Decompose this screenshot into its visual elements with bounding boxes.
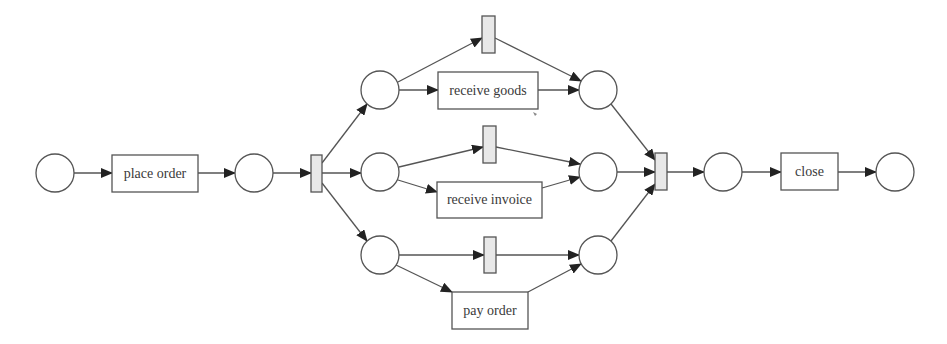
arc-arrow bbox=[611, 184, 655, 241]
place-p_end bbox=[876, 153, 914, 191]
place-p1 bbox=[235, 154, 273, 192]
transition-t_close bbox=[781, 153, 838, 190]
silent-transition-t_skip_invoice bbox=[483, 126, 496, 163]
arc-arrow bbox=[398, 180, 437, 192]
transition-t_recv_goods bbox=[438, 72, 538, 109]
place-p_i_out bbox=[579, 153, 617, 191]
petri-net-diagram bbox=[0, 0, 947, 344]
arc-arrow bbox=[542, 177, 580, 188]
place-p_g_out bbox=[579, 71, 617, 109]
arc-arrow bbox=[611, 104, 655, 160]
arc-arrow bbox=[496, 147, 580, 164]
arc-arrow bbox=[528, 264, 581, 292]
place-p_start bbox=[36, 154, 74, 192]
place-p2 bbox=[704, 153, 742, 191]
silent-transition-t_skip_goods bbox=[482, 16, 495, 53]
silent-transition-t_split bbox=[311, 155, 322, 192]
arc-arrow bbox=[322, 104, 367, 163]
scan-artifact-speck bbox=[533, 112, 537, 116]
silent-transition-t_skip_pay bbox=[484, 237, 496, 273]
silent-transition-t_join bbox=[655, 153, 667, 190]
arc-arrow bbox=[399, 147, 483, 167]
place-p_p_in bbox=[361, 236, 399, 274]
transition-t_recv_invoice bbox=[437, 182, 542, 218]
arc-arrow bbox=[396, 265, 452, 292]
place-p_i_in bbox=[361, 153, 399, 191]
place-p_p_out bbox=[579, 236, 617, 274]
arc-arrow bbox=[322, 183, 367, 241]
place-p_g_in bbox=[361, 71, 399, 109]
transition-t_place_order bbox=[112, 155, 198, 192]
transition-t_pay_order bbox=[452, 292, 528, 329]
